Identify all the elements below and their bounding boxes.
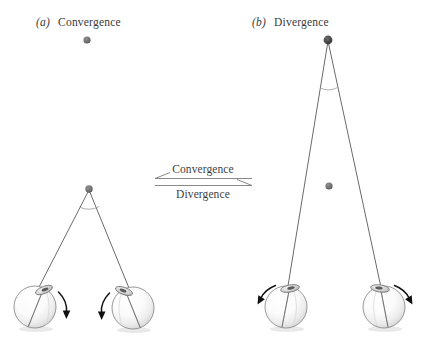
- figure-root: (a) Convergence: [0, 0, 422, 344]
- panel-b-right-gaze-line: [328, 41, 382, 292]
- panel-b-label: (b) Divergence: [252, 16, 329, 29]
- panel-b-left-gaze-line: [287, 41, 328, 292]
- panel-a-near-fixation-dot: [85, 185, 92, 192]
- panel-b-title: Divergence: [274, 16, 329, 29]
- panel-b-vergence-angle-arc: [320, 88, 338, 90]
- panel-b-index: (b): [252, 16, 266, 29]
- panel-a-left-eye: [14, 283, 70, 332]
- panel-b-far-target-dot: [325, 182, 332, 189]
- panel-b: (b) Divergence: [252, 16, 413, 332]
- panel-a-title: Convergence: [58, 16, 121, 29]
- panel-a-left-eye-rotation-arrowhead: [63, 311, 71, 320]
- panel-b-near-fixation-dot: [324, 36, 333, 45]
- panel-a-left-eye-rotation-arrow: [59, 292, 67, 312]
- transition-bottom-arrowhead: [237, 180, 252, 186]
- panel-a-far-target-dot: [83, 36, 90, 43]
- panel-a-right-eye-globe: [112, 287, 154, 329]
- panel-a-index: (a): [36, 16, 50, 29]
- vergence-transition-arrows: Convergence Divergence: [155, 163, 252, 201]
- panel-a-left-gaze-line: [37, 190, 90, 292]
- transition-bottom-label: Divergence: [176, 188, 230, 201]
- transition-top-arrowhead: [155, 173, 170, 179]
- transition-top-label: Convergence: [172, 163, 234, 176]
- vergence-diagram: (a) Convergence: [0, 0, 422, 344]
- panel-a-right-eye-rotation-arrow: [101, 293, 109, 313]
- panel-a-right-eye-rotation-arrowhead: [98, 312, 106, 321]
- panel-b-left-eye: [258, 283, 308, 332]
- panel-a-label: (a) Convergence: [36, 16, 121, 29]
- panel-a-right-gaze-line: [89, 190, 131, 293]
- panel-a: (a) Convergence: [14, 16, 154, 333]
- panel-a-right-eye: [98, 285, 154, 333]
- panel-a-left-eye-globe: [14, 286, 56, 328]
- panel-b-right-eye: [363, 284, 413, 332]
